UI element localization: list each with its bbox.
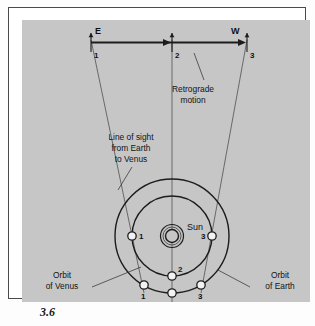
orbit-earth-label-line2: of Earth bbox=[265, 281, 295, 291]
sky-tick-label-1: 1 bbox=[94, 51, 99, 60]
orbit-earth-annotation: Orbit of Earth bbox=[218, 270, 295, 291]
earth-markers-group: 1 2 3 bbox=[140, 281, 205, 302]
earth-marker-label-1: 1 bbox=[141, 292, 146, 301]
sky-tick-label-2: 2 bbox=[175, 51, 180, 60]
orbit-earth-label-line1: Orbit bbox=[271, 270, 290, 280]
line-of-sight-annotation: Line of sight from Earth to Venus bbox=[108, 132, 154, 190]
venus-marker-1 bbox=[128, 232, 136, 240]
retrograde-motion-diagram: E W 1 2 3 Retrograde motion Line of sigh… bbox=[22, 20, 310, 302]
sun-ring-inner bbox=[166, 230, 179, 243]
sky-tick-3-arrowhead bbox=[245, 33, 250, 37]
venus-marker-2 bbox=[168, 272, 176, 280]
sky-tick-1-arrowhead bbox=[89, 33, 94, 37]
line-of-sight-label-line3: to Venus bbox=[115, 154, 148, 164]
venus-marker-label-1: 1 bbox=[139, 232, 144, 241]
earth-marker-1 bbox=[140, 281, 148, 289]
retrograde-leader-line bbox=[194, 53, 204, 80]
sky-tick-label-3: 3 bbox=[250, 51, 255, 60]
retrograde-annotation: Retrograde motion bbox=[172, 53, 214, 105]
direction-east-label: E bbox=[95, 26, 101, 36]
retrograde-label-line2: motion bbox=[180, 95, 205, 105]
figure-page: E W 1 2 3 Retrograde motion Line of sigh… bbox=[0, 0, 315, 326]
diagram-panel: E W 1 2 3 Retrograde motion Line of sigh… bbox=[22, 20, 310, 302]
retrograde-label-line1: Retrograde bbox=[172, 84, 214, 94]
line-of-sight-label-line2: from Earth bbox=[111, 143, 150, 153]
venus-marker-3 bbox=[208, 232, 216, 240]
orbit-earth-leader-line bbox=[218, 270, 250, 287]
venus-marker-label-3: 3 bbox=[201, 232, 206, 241]
retrograde-arrowhead-mid bbox=[163, 39, 171, 46]
sight-lines-group bbox=[91, 40, 247, 302]
earth-marker-label-2: 2 bbox=[169, 300, 174, 302]
sky-tick-2-arrowhead bbox=[170, 33, 175, 37]
earth-marker-3 bbox=[197, 281, 205, 289]
retrograde-arrowhead-end bbox=[238, 39, 246, 46]
earth-marker-label-3: 3 bbox=[198, 292, 203, 301]
venus-marker-label-2: 2 bbox=[178, 265, 183, 274]
direction-west-label: W bbox=[231, 26, 240, 36]
orbit-venus-label-line1: Orbit bbox=[53, 270, 72, 280]
figure-frame: E W 1 2 3 Retrograde motion Line of sigh… bbox=[8, 7, 306, 299]
figure-caption: 3.6 bbox=[40, 305, 55, 320]
sun-label: Sun bbox=[187, 222, 203, 232]
earth-marker-2 bbox=[168, 289, 176, 297]
orbit-venus-leader-line bbox=[92, 267, 141, 287]
line-of-sight-label-line1: Line of sight bbox=[108, 132, 154, 142]
orbit-venus-label-line2: of Venus bbox=[46, 281, 79, 291]
